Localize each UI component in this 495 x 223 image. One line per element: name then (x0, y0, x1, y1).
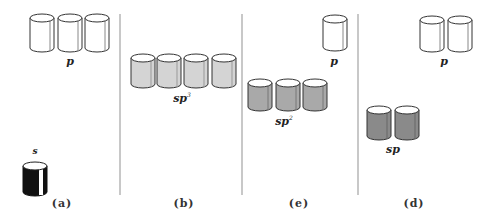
sp2-orbital-cylinder-icon (275, 78, 301, 112)
p-orbital-label: p (440, 55, 448, 68)
sp3-orbital-cylinder-icon (211, 53, 237, 89)
sp2-orbital-cylinder-icon (302, 78, 328, 112)
sp2-orbital-cylinder-icon (247, 78, 273, 112)
sp2-orbital-label: sp2 (275, 114, 293, 128)
panel-label-b: (b) (173, 197, 194, 210)
p-orbital-label: p (330, 55, 338, 68)
p-orbital-cylinder-icon (29, 13, 55, 53)
p-orbital-cylinder-icon (419, 15, 445, 53)
s-orbital-cylinder-icon (22, 161, 48, 197)
panel-label-a: (a) (52, 197, 73, 210)
p-orbital-cylinder-icon (447, 15, 473, 53)
p-orbital-cylinder-icon (84, 13, 110, 53)
panel-divider-3 (357, 14, 359, 195)
sp3-orbital-cylinder-icon (183, 53, 209, 89)
panel-divider-2 (241, 14, 243, 195)
p-orbital-label: p (66, 55, 74, 68)
sp-orbital-cylinder-icon (366, 105, 392, 141)
panel-divider-1 (119, 14, 121, 195)
sp3-orbital-label: sp3 (173, 91, 191, 105)
p-orbital-cylinder-icon (322, 14, 348, 52)
p-orbital-cylinder-icon (57, 13, 83, 53)
s-orbital-label: s (32, 146, 37, 156)
sp-orbital-cylinder-icon (394, 105, 420, 141)
sp3-orbital-cylinder-icon (130, 53, 156, 89)
sp3-orbital-cylinder-icon (156, 53, 182, 89)
sp-orbital-label: sp (386, 143, 400, 156)
panel-label-d: (d) (403, 197, 424, 210)
panel-label-c: (e) (289, 197, 309, 210)
